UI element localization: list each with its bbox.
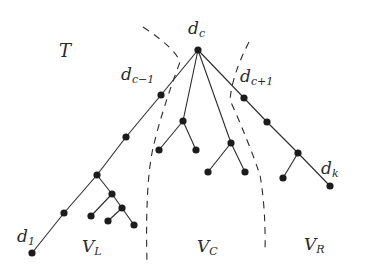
tree-node	[130, 221, 137, 228]
tree-edge	[267, 122, 298, 153]
tree-edge	[244, 98, 267, 122]
node-label-dk: dk	[321, 160, 339, 179]
tree-node	[294, 149, 301, 156]
tree-node	[263, 118, 270, 125]
tree-edge	[97, 175, 112, 194]
tree-edge	[97, 137, 126, 175]
tree-node	[93, 171, 100, 178]
tree-node	[122, 133, 129, 140]
tree-edge	[283, 153, 298, 178]
node-label-d1: d1	[17, 228, 35, 247]
tree-edge	[183, 121, 196, 150]
left-region-divider	[143, 27, 180, 262]
tree-node	[155, 146, 162, 153]
tree-node	[60, 209, 67, 216]
tree-edge	[198, 50, 231, 143]
tree-node	[28, 249, 35, 256]
tree-edge	[198, 50, 244, 98]
tree-edge	[64, 175, 97, 213]
region-label-vc: VC	[197, 238, 218, 257]
node-label-dc: dc	[188, 20, 205, 39]
tree-node	[194, 46, 201, 53]
tree-edge	[161, 50, 198, 95]
tree-edge	[208, 143, 231, 172]
tree-edge	[32, 213, 64, 253]
tree-node	[108, 190, 115, 197]
tree-node	[204, 168, 211, 175]
region-label-vl: VL	[82, 238, 102, 257]
tree-label: T	[59, 42, 71, 60]
tree-node	[240, 94, 247, 101]
tree-node	[104, 217, 111, 224]
tree-edge	[159, 121, 183, 150]
tree-edge	[231, 143, 245, 172]
tree-edge	[183, 50, 198, 121]
tree-node	[279, 174, 286, 181]
tree-nodes	[28, 46, 333, 256]
tree-node	[192, 146, 199, 153]
tree-node	[227, 139, 234, 146]
tree-edge	[126, 95, 161, 137]
tree-node	[241, 168, 248, 175]
tree-node	[87, 212, 94, 219]
tree-node	[326, 182, 333, 189]
region-label-vr: VR	[304, 236, 325, 255]
tree-edges	[32, 50, 330, 253]
tree-node	[118, 204, 125, 211]
tree-node	[179, 117, 186, 124]
node-label-dc-plus-1: dc+1	[240, 68, 273, 87]
tree-node	[157, 91, 164, 98]
node-label-dc-minus-1: dc−1	[121, 66, 154, 85]
tree-edge	[91, 194, 112, 216]
